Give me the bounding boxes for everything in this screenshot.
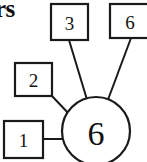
node-2-label: 2 <box>29 70 39 91</box>
node-6[interactable]: 6 <box>110 4 147 38</box>
node-1-label: 1 <box>19 130 29 151</box>
node-1[interactable]: 1 <box>4 121 43 158</box>
node-3[interactable]: 3 <box>51 4 88 40</box>
diagram-canvas: rs 6 3 6 2 1 <box>0 0 147 162</box>
node-6-label: 6 <box>125 12 135 33</box>
hub-label: 6 <box>88 115 105 152</box>
hub-node[interactable]: 6 <box>62 97 130 162</box>
edge-node-3-to-hub <box>69 40 88 103</box>
node-3-label: 3 <box>65 13 75 34</box>
edge-node-6-to-hub <box>106 38 131 105</box>
node-link-diagram: 6 3 6 2 1 <box>0 0 147 162</box>
node-2[interactable]: 2 <box>15 63 52 96</box>
